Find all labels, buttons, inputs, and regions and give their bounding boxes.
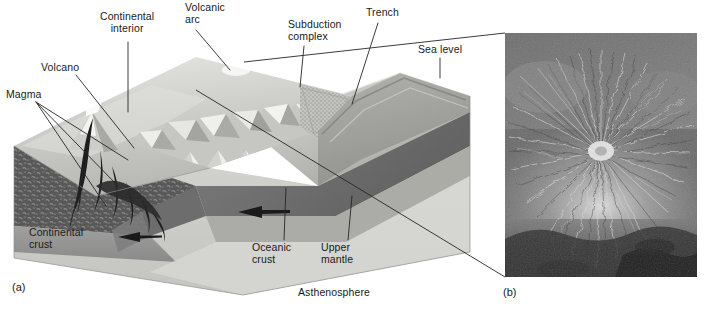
volcanic-arc-mountains — [120, 104, 352, 182]
magma-chamber — [96, 181, 162, 220]
photo-grain — [505, 33, 697, 277]
panel-b-photograph — [505, 33, 697, 277]
sea-level-plane-edge — [248, 73, 470, 128]
continental-crust-speckled — [14, 146, 196, 236]
callout-line-top — [244, 33, 505, 62]
label-subduction-complex: Subduction complex — [288, 18, 342, 42]
volcano-aerial-image — [505, 33, 697, 277]
trench-slope — [318, 73, 470, 186]
label-magma: Magma — [6, 88, 42, 100]
arrow-oceanic-plate-right — [238, 206, 290, 218]
leader-continental-crust — [70, 176, 82, 226]
figure-container: Continental interior Volcanic arc Subduc… — [0, 0, 707, 313]
leader-volcanic-arc — [196, 30, 230, 70]
label-asthenosphere: Asthenosphere — [298, 286, 370, 298]
block-right-face — [400, 73, 470, 252]
subduction-complex-outline — [302, 88, 348, 134]
arrow-oceanic-plate-left — [118, 232, 162, 242]
subduction-complex-wedge — [300, 84, 352, 138]
trench-axis — [322, 78, 466, 134]
asthenosphere-lower — [150, 176, 470, 295]
label-continental-interior: Continental interior — [100, 10, 154, 34]
leader-magma-2 — [36, 102, 118, 186]
asthenosphere-body — [14, 112, 470, 295]
continental-surface — [14, 57, 352, 196]
label-upper-mantle: Upper mantle — [321, 241, 353, 265]
label-sea-level: Sea level — [418, 43, 462, 55]
slab-deep-tip — [112, 212, 150, 252]
leader-magma-3 — [36, 102, 106, 206]
ocean-surface — [248, 73, 470, 186]
volcano-ash-plume — [86, 40, 122, 116]
label-continental-crust: Continental crust — [29, 226, 83, 250]
continental-interior-plateau — [22, 85, 206, 158]
slab-descending-tip — [142, 186, 206, 236]
block-edges — [14, 96, 470, 295]
leader-lines — [36, 23, 440, 240]
leader-subduction-complex — [300, 46, 304, 87]
upper-mantle-slab-band — [206, 146, 470, 242]
leader-upper-mantle — [348, 196, 352, 240]
magma-conduits — [72, 118, 165, 242]
leader-volcano — [76, 75, 134, 148]
panel-b-caption-id: (b) — [503, 286, 516, 298]
volcanic-arc-steam-plume — [222, 64, 250, 76]
stratovolcano — [68, 112, 118, 152]
label-trench: Trench — [366, 6, 399, 18]
leader-magma-1 — [36, 102, 128, 160]
oceanic-crust-slab — [196, 112, 470, 216]
trench-highlight — [330, 88, 468, 142]
label-volcano: Volcano — [41, 61, 79, 73]
volcanic-arc-steam-plume-2 — [236, 60, 252, 68]
label-volcanic-arc: Volcanic arc — [185, 1, 225, 25]
panel-a-caption-id: (a) — [12, 281, 25, 293]
leader-oceanic-crust — [284, 188, 286, 240]
leader-trench — [352, 23, 378, 104]
label-oceanic-crust: Oceanic crust — [252, 241, 291, 265]
